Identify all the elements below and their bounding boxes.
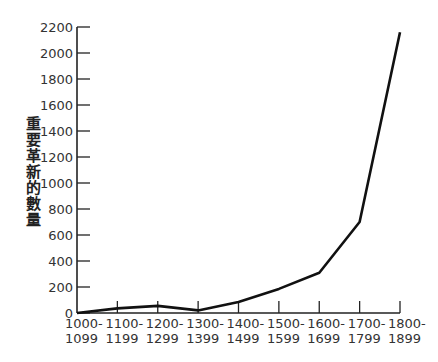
x-tick-label: 1300-1399 xyxy=(186,316,224,346)
x-tick-label: 1200-1299 xyxy=(146,316,184,346)
x-tick-label: 1100-1199 xyxy=(105,316,143,346)
y-tick-label: 800 xyxy=(48,202,73,217)
line-chart: 0200400600800100012001400160018002000220… xyxy=(0,0,438,362)
y-tick-label: 400 xyxy=(48,254,73,269)
x-tick-label: 1400-1499 xyxy=(227,316,265,346)
y-tick-label: 1000 xyxy=(40,176,73,191)
x-tick-label: 1600-1699 xyxy=(307,316,345,346)
data-line xyxy=(77,32,400,313)
y-tick-label: 200 xyxy=(48,280,73,295)
x-tick-label: 1800-1899 xyxy=(388,316,426,346)
y-tick-label: 1600 xyxy=(40,98,73,113)
y-tick-label: 2000 xyxy=(40,46,73,61)
y-tick-label: 2200 xyxy=(40,20,73,35)
y-tick-label: 1200 xyxy=(40,150,73,165)
x-tick-label: 1500-1599 xyxy=(267,316,305,346)
x-tick-label: 1000-1099 xyxy=(65,316,103,346)
y-tick-label: 1800 xyxy=(40,72,73,87)
y-tick-label: 600 xyxy=(48,228,73,243)
x-tick-label: 1700-1799 xyxy=(348,316,386,346)
y-tick-label: 1400 xyxy=(40,124,73,139)
y-axis: 0200400600800100012001400160018002000220… xyxy=(40,20,90,321)
